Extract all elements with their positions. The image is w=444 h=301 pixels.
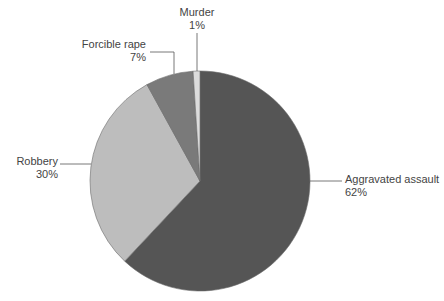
label-robbery-pct: 30%	[4, 168, 58, 181]
label-assault-name: Aggravated assault	[345, 173, 444, 186]
label-robbery-name: Robbery	[4, 155, 58, 168]
label-aggravated-assault: Aggravated assault 62%	[345, 173, 444, 199]
label-murder: Murder 1%	[177, 6, 217, 32]
label-robbery: Robbery 30%	[4, 155, 58, 181]
leader-line	[150, 52, 174, 74]
label-rape-pct: 7%	[66, 51, 146, 64]
label-assault-pct: 62%	[345, 186, 444, 199]
label-murder-pct: 1%	[177, 19, 217, 32]
label-rape-name: Forcible rape	[66, 38, 146, 51]
label-murder-name: Murder	[177, 6, 217, 19]
label-forcible-rape: Forcible rape 7%	[66, 38, 146, 64]
